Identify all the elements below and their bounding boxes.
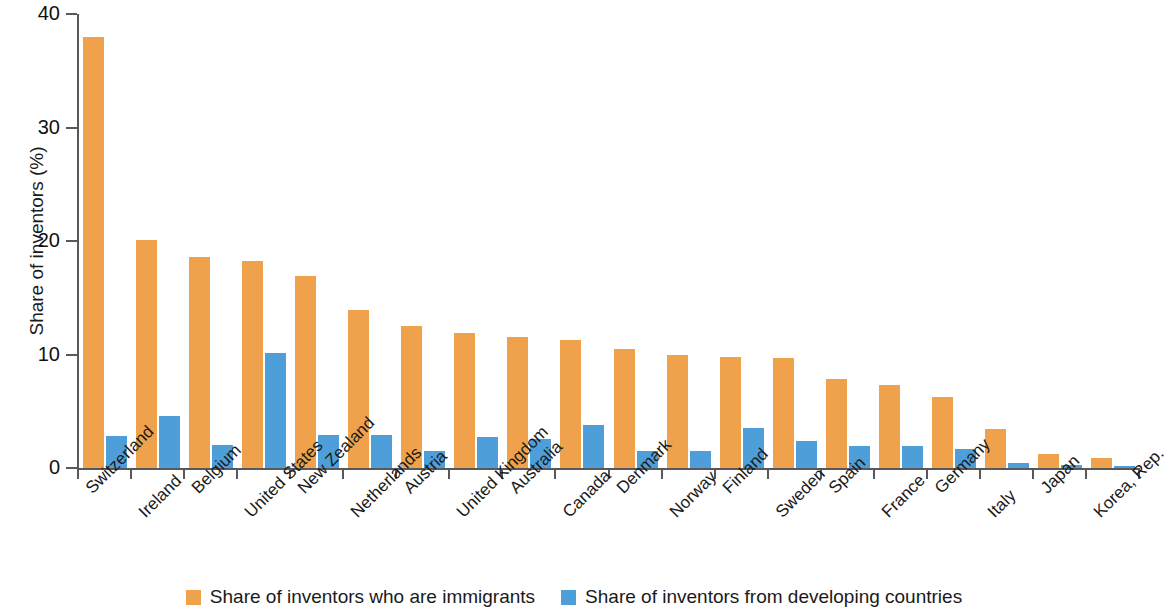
chart-legend: Share of inventors who are immigrants Sh… (0, 586, 1148, 608)
bar-group (450, 14, 503, 468)
bar-group (79, 14, 132, 468)
bar-group (503, 14, 556, 468)
bar-immigrants (879, 385, 900, 468)
y-tick-mark (66, 240, 77, 242)
plot-area (79, 14, 1140, 468)
x-tick-mark (289, 470, 291, 479)
bar-developing (583, 425, 604, 468)
bar-immigrants (348, 310, 369, 468)
bar-developing (796, 441, 817, 468)
bar-developing (690, 451, 711, 468)
x-tick-label: France (878, 471, 929, 522)
bar-group (291, 14, 344, 468)
bar-developing (849, 446, 870, 468)
x-tick-mark (661, 470, 663, 479)
bar-immigrants (83, 37, 104, 468)
bar-immigrants (189, 257, 210, 468)
x-tick-mark (714, 470, 716, 479)
x-tick-mark (1032, 470, 1034, 479)
bar-group (238, 14, 291, 468)
bar-developing (265, 353, 286, 468)
legend-swatch-icon (186, 590, 201, 605)
bar-immigrants (1038, 454, 1059, 468)
bar-developing (477, 437, 498, 468)
bar-immigrants (401, 326, 422, 468)
bar-developing (902, 446, 923, 468)
bar-immigrants (136, 240, 157, 468)
bar-developing (424, 451, 445, 468)
x-tick-mark (395, 470, 397, 479)
bar-developing (1061, 465, 1082, 468)
y-tick-label: 0 (18, 457, 60, 477)
x-tick-mark (236, 470, 238, 479)
bar-immigrants (667, 355, 688, 469)
bar-group (928, 14, 981, 468)
bar-immigrants (295, 276, 316, 468)
x-tick-mark (342, 470, 344, 479)
x-tick-mark (183, 470, 185, 479)
y-tick-label: 20 (18, 230, 60, 250)
bar-group (875, 14, 928, 468)
y-tick-mark (66, 467, 77, 469)
legend-label: Share of inventors who are immigrants (210, 586, 535, 608)
x-tick-mark (1085, 470, 1087, 479)
x-tick-mark (873, 470, 875, 479)
bar-group (610, 14, 663, 468)
x-tick-label: Italy (984, 486, 1019, 521)
x-tick-mark (448, 470, 450, 479)
bar-immigrants (826, 379, 847, 468)
x-tick-mark (501, 470, 503, 479)
bar-developing (637, 451, 658, 468)
y-tick-mark (66, 13, 77, 15)
x-tick-mark (926, 470, 928, 479)
x-tick-label: Ireland (135, 471, 185, 521)
bar-group (1034, 14, 1087, 468)
x-tick-mark (554, 470, 556, 479)
bar-developing (212, 445, 233, 468)
x-tick-label: Norway (666, 467, 720, 521)
bar-group (663, 14, 716, 468)
y-tick-mark (66, 354, 77, 356)
bar-developing (1114, 466, 1135, 468)
bar-immigrants (773, 358, 794, 468)
x-tick-mark (130, 470, 132, 479)
bar-immigrants (507, 337, 528, 468)
x-tick-mark (77, 470, 79, 479)
bar-developing (371, 435, 392, 468)
y-tick-label: 30 (18, 117, 60, 137)
y-tick-mark (66, 127, 77, 129)
bar-developing (743, 428, 764, 468)
bar-immigrants (614, 349, 635, 468)
bar-group (769, 14, 822, 468)
legend-item-immigrants: Share of inventors who are immigrants (186, 586, 535, 608)
x-tick-mark (979, 470, 981, 479)
y-tick-label: 40 (18, 3, 60, 23)
bar-group (822, 14, 875, 468)
bar-developing (955, 449, 976, 468)
bar-immigrants (985, 429, 1006, 468)
bar-group (981, 14, 1034, 468)
bar-group (716, 14, 769, 468)
bar-group (344, 14, 397, 468)
bar-immigrants (932, 397, 953, 469)
bar-immigrants (560, 340, 581, 468)
bar-group (1087, 14, 1140, 468)
x-tick-mark (1138, 470, 1140, 479)
bar-developing (159, 416, 180, 468)
bar-group (556, 14, 609, 468)
bar-developing (318, 435, 339, 468)
bar-developing (530, 439, 551, 469)
legend-label: Share of inventors from developing count… (585, 586, 962, 608)
x-tick-mark (820, 470, 822, 479)
bar-group (132, 14, 185, 468)
bar-immigrants (454, 333, 475, 468)
x-tick-mark (767, 470, 769, 479)
x-tick-mark (608, 470, 610, 479)
legend-swatch-icon (561, 590, 576, 605)
y-tick-label: 10 (18, 344, 60, 364)
bar-developing (1008, 463, 1029, 468)
bar-immigrants (720, 357, 741, 468)
bar-developing (106, 436, 127, 468)
bar-immigrants (1091, 458, 1112, 468)
